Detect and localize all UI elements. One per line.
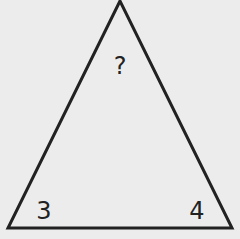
triangle-diagram: ? 3 4 <box>0 0 240 239</box>
bottom-right-value-label: 4 <box>189 199 204 223</box>
bottom-left-value-label: 3 <box>36 199 51 223</box>
top-value-label: ? <box>114 54 127 78</box>
